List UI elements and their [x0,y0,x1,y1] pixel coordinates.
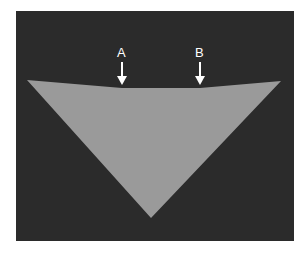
marker-label-a: A [117,46,126,59]
arrow-a-icon [117,62,127,85]
triangle-diagram [0,0,308,253]
marker-label-b: B [195,46,204,59]
arrow-b-icon [195,62,205,85]
inverted-triangle [27,80,281,218]
